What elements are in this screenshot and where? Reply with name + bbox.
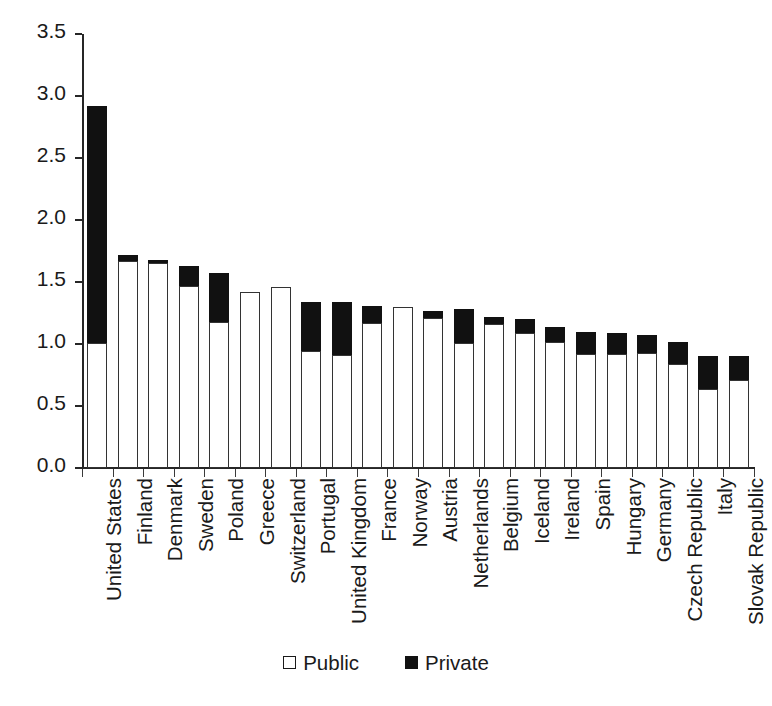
x-axis-label-belgium: Belgium: [501, 478, 522, 552]
y-axis-tick-label: 0.5: [37, 392, 66, 413]
y-axis-tick-label: 3.0: [37, 82, 66, 103]
x-axis-tick: [601, 469, 602, 477]
legend-item-public[interactable]: Public: [283, 652, 359, 673]
bar-segment-private: [545, 327, 565, 342]
bar-austria[interactable]: [423, 34, 443, 468]
bar-segment-public: [393, 307, 413, 468]
bar-segment-private: [148, 260, 168, 264]
legend-item-private[interactable]: Private: [405, 652, 489, 673]
bar-segment-public: [576, 354, 596, 468]
x-axis-label-greece: Greece: [257, 478, 278, 545]
bar-sweden[interactable]: [179, 34, 199, 468]
bar-netherlands[interactable]: [454, 34, 474, 468]
legend-swatch-private-icon: [405, 656, 418, 669]
bar-segment-private: [576, 332, 596, 354]
bar-segment-public: [362, 323, 382, 468]
bar-segment-private: [729, 356, 749, 380]
bar-norway[interactable]: [393, 34, 413, 468]
bar-france[interactable]: [362, 34, 382, 468]
bar-czech-republic[interactable]: [668, 34, 688, 468]
x-axis-label-slovak-republic: Slovak Republic: [746, 478, 767, 625]
y-axis-tick: 2.5: [75, 157, 82, 159]
bar-switzerland[interactable]: [271, 34, 291, 468]
y-axis-tick-label: 2.5: [37, 144, 66, 165]
x-axis-label-united-states: United States: [104, 478, 125, 601]
y-axis-tick-label: 1.5: [37, 268, 66, 289]
x-axis-tick: [723, 469, 724, 477]
x-axis-tick: [357, 469, 358, 477]
y-axis-tick: 1.0: [75, 343, 82, 345]
x-axis-label-austria: Austria: [440, 478, 461, 542]
bar-united-states[interactable]: [87, 34, 107, 468]
bar-segment-private: [301, 302, 321, 352]
bar-ireland[interactable]: [545, 34, 565, 468]
x-axis-label-ireland: Ireland: [562, 478, 583, 541]
x-axis-label-netherlands: Netherlands: [471, 478, 492, 589]
x-axis-tick: [235, 469, 236, 477]
x-axis-tick: [143, 469, 144, 477]
y-axis-tick: 0.5: [75, 405, 82, 407]
x-axis-tick: [449, 469, 450, 477]
legend-swatch-public-icon: [283, 656, 296, 669]
y-axis-tick-label: 0.0: [37, 454, 66, 475]
bar-segment-private: [698, 356, 718, 388]
x-axis-label-denmark: Denmark: [165, 478, 186, 561]
bar-segment-public: [607, 354, 627, 468]
bar-segment-public: [148, 263, 168, 468]
x-axis-tick: [418, 469, 419, 477]
bar-portugal[interactable]: [301, 34, 321, 468]
bar-segment-public: [179, 286, 199, 468]
x-axis-tick: [113, 469, 114, 477]
bar-segment-private: [637, 335, 657, 352]
bar-segment-public: [668, 364, 688, 468]
bar-segment-private: [179, 266, 199, 286]
x-axis-tick: [204, 469, 205, 477]
y-axis-tick: 3.5: [75, 33, 82, 35]
bar-segment-private: [362, 306, 382, 323]
x-axis-tick: [326, 469, 327, 477]
x-axis-tick: [174, 469, 175, 477]
y-axis-tick: 0.0: [75, 467, 82, 469]
x-axis-tick: [479, 469, 480, 477]
y-axis-tick: 3.0: [75, 95, 82, 97]
x-axis-label-germany: Germany: [654, 478, 675, 562]
bar-segment-public: [209, 322, 229, 468]
y-axis-tick-label: 2.0: [37, 206, 66, 227]
bar-germany[interactable]: [637, 34, 657, 468]
bar-segment-private: [423, 311, 443, 318]
bar-segment-private: [607, 333, 627, 354]
bar-segment-public: [545, 342, 565, 468]
x-axis-tick: [693, 469, 694, 477]
bar-segment-public: [637, 353, 657, 468]
bar-segment-private: [87, 106, 107, 343]
bar-segment-public: [729, 380, 749, 468]
bar-segment-public: [454, 343, 474, 468]
x-axis-label-united-kingdom: United Kingdom: [349, 478, 370, 624]
plot-area: 0.00.51.01.52.02.53.03.5: [82, 34, 754, 468]
x-axis-tick: [296, 469, 297, 477]
bar-belgium[interactable]: [484, 34, 504, 468]
bar-spain[interactable]: [576, 34, 596, 468]
bar-segment-private: [332, 302, 352, 355]
bar-slovak-republic[interactable]: [729, 34, 749, 468]
bar-hungary[interactable]: [607, 34, 627, 468]
bar-finland[interactable]: [118, 34, 138, 468]
bar-italy[interactable]: [698, 34, 718, 468]
y-axis-tick: 1.5: [75, 281, 82, 283]
x-axis-label-switzerland: Switzerland: [288, 478, 309, 584]
x-axis-label-hungary: Hungary: [624, 478, 645, 556]
chart-container: 0.00.51.01.52.02.53.03.5 United StatesFi…: [0, 0, 772, 706]
bar-united-kingdom[interactable]: [332, 34, 352, 468]
x-axis-tick: [510, 469, 511, 477]
bar-segment-public: [698, 389, 718, 468]
x-axis-tick: [571, 469, 572, 477]
bar-poland[interactable]: [209, 34, 229, 468]
bar-segment-public: [484, 324, 504, 468]
bar-denmark[interactable]: [148, 34, 168, 468]
x-axis-tick: [265, 469, 266, 477]
legend-label-public: Public: [303, 652, 359, 673]
y-axis-tick-label: 1.0: [37, 330, 66, 351]
bar-greece[interactable]: [240, 34, 260, 468]
bar-segment-private: [454, 309, 474, 342]
bar-iceland[interactable]: [515, 34, 535, 468]
